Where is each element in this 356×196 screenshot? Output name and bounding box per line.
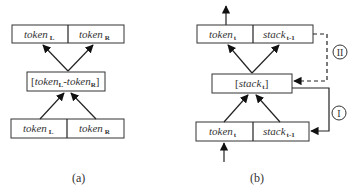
svg-text:tokent: tokent	[209, 28, 237, 42]
b-bottom-box: tokent stackt-1	[196, 122, 309, 141]
a-middle-box: [tokenL-tokenR]	[27, 72, 105, 91]
a-caption: (a)	[72, 171, 85, 185]
b-middle-box: [stackt]	[212, 74, 292, 93]
b-top-box: tokent stackt-1	[197, 25, 313, 43]
a-top-right-text: token	[79, 28, 103, 40]
b-circle-label-II: II	[333, 45, 347, 59]
svg-text:II: II	[337, 47, 344, 58]
b-circle-label-I: I	[332, 106, 346, 120]
svg-text:[tokenL-tokenR]: [tokenL-tokenR]	[31, 75, 99, 89]
svg-text:tokent: tokent	[209, 125, 237, 139]
diagram-canvas: tokenL tokenR [tokenL-tokenR] tokenL tok…	[0, 0, 356, 196]
b-arrow-mid-to-top-left	[228, 45, 252, 73]
b-caption: (b)	[250, 171, 264, 185]
a-arrow-mid-to-top-left	[43, 45, 68, 71]
b-arrow-mid-to-top-right	[252, 45, 279, 73]
a-arrow-bottom-left-to-mid	[40, 93, 64, 119]
a-arrow-bottom-right-to-mid	[71, 93, 96, 119]
figure-a: tokenL tokenR [tokenL-tokenR] tokenL tok…	[11, 25, 124, 185]
b-arrow-bottom-right-to-mid	[256, 95, 280, 122]
a-arrow-mid-to-top-right	[68, 45, 93, 71]
b-arrow-bottom-left-to-mid	[224, 95, 248, 122]
a-top-left-sub: L	[50, 34, 55, 42]
a-top-box: tokenL tokenR	[12, 25, 124, 43]
a-bottom-box: tokenL tokenR	[11, 119, 124, 138]
svg-text:I: I	[337, 108, 340, 119]
figure-b: tokent stackt-1 [stackt] tokent stackt-1…	[196, 6, 347, 185]
a-top-left-text: token	[24, 28, 48, 40]
